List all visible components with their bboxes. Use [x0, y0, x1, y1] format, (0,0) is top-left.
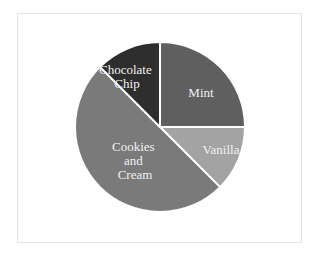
- label-vanilla: Vanilla: [203, 142, 240, 157]
- label-mint: Mint: [188, 85, 214, 100]
- pie-chart: Mint Vanilla Cookies and Cream Chocolate…: [0, 0, 319, 261]
